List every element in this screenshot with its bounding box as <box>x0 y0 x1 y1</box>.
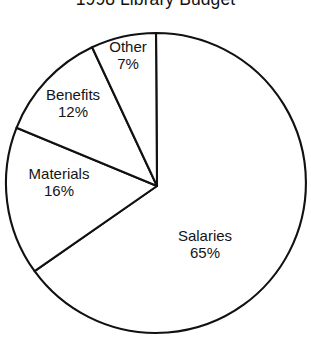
pie-label-other: Other 7% <box>96 38 160 72</box>
pie-label-materials-name: Materials <box>29 165 90 182</box>
pie-label-materials-value: 16% <box>12 182 106 199</box>
pie-label-salaries: Salaries 65% <box>160 227 250 261</box>
pie-chart-figure: 1998 Library Budget Other 7% Benefits 12… <box>0 0 311 351</box>
pie-label-benefits-name: Benefits <box>46 86 100 103</box>
pie-label-benefits: Benefits 12% <box>32 86 114 120</box>
pie-label-benefits-value: 12% <box>32 103 114 120</box>
pie-label-other-name: Other <box>109 38 147 55</box>
pie-label-salaries-value: 65% <box>160 244 250 261</box>
pie-label-other-value: 7% <box>96 55 160 72</box>
pie-label-materials: Materials 16% <box>12 165 106 199</box>
pie-label-salaries-name: Salaries <box>178 227 232 244</box>
